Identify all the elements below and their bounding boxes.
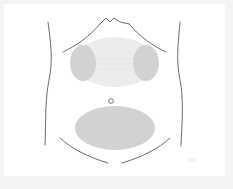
right-chest-lobe-region <box>133 45 159 81</box>
left-chest-lobe-region <box>70 45 96 81</box>
torso-illustration <box>0 0 233 189</box>
flank-left-line <box>45 22 51 145</box>
torso-diagram-root <box>0 0 233 189</box>
umbilicus-marker <box>109 99 114 104</box>
neck-notch-line <box>100 18 129 24</box>
abdominal-zone-region <box>75 106 155 150</box>
page-artifact-smudge <box>188 158 197 162</box>
flank-right-line <box>178 22 183 146</box>
